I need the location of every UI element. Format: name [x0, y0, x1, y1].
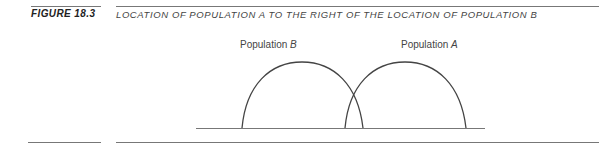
population-a-curve [345, 62, 466, 128]
bottom-rule-right [116, 142, 599, 143]
population-b-curve [242, 62, 363, 128]
bottom-rule-left [28, 142, 101, 143]
distribution-diagram [0, 0, 599, 146]
